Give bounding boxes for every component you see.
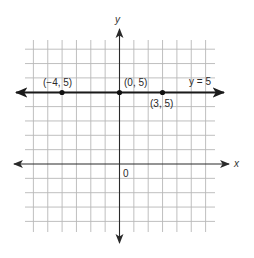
point-label-neg4-5: (−4, 5) [43, 77, 72, 88]
x-axis-label: x [233, 158, 240, 169]
point-neg4-5 [59, 90, 64, 95]
point-label-0-5: (0, 5) [124, 77, 147, 88]
y-axis-label: y [114, 14, 121, 25]
point-0-5 [117, 90, 122, 95]
coordinate-plane: x y 0 y = 5 (−4, 5) (0, 5) (3, 5) [0, 0, 254, 258]
point-label-3-5: (3, 5) [150, 98, 173, 109]
line-equation-label: y = 5 [189, 76, 211, 87]
point-3-5 [160, 90, 165, 95]
origin-label: 0 [123, 168, 129, 179]
